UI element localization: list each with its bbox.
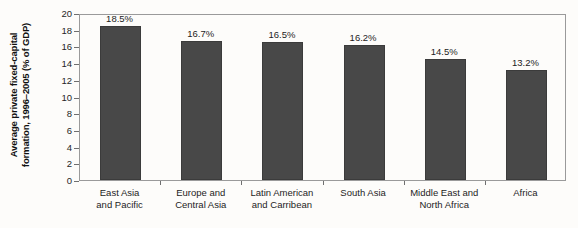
bar-value-label: 14.5% (414, 47, 474, 57)
bar-value-label: 18.5% (90, 14, 150, 24)
bar-value-label: 16.7% (171, 29, 231, 39)
bar[interactable] (344, 45, 385, 180)
bar[interactable] (181, 41, 222, 180)
y-axis-title-container: Average private fixed-capital formation,… (0, 0, 40, 190)
y-axis-tick-label: 0 (52, 176, 72, 186)
y-axis-tick-mark (74, 14, 79, 15)
plot-area (79, 14, 566, 181)
y-axis-tick-label: 16 (52, 42, 72, 52)
x-axis-category-label-line: and Carribean (234, 199, 330, 211)
bar-value-label: 16.5% (252, 30, 312, 40)
x-axis-category-label-line: Africa (477, 187, 573, 199)
y-axis-tick-mark (74, 98, 79, 99)
y-axis-tick-label: 8 (52, 109, 72, 119)
y-axis-tick-mark (74, 64, 79, 65)
y-axis-title: Average private fixed-capital formation,… (3, 18, 37, 172)
x-axis-tick-mark (160, 181, 161, 185)
bar[interactable] (506, 70, 547, 180)
bar-value-label: 13.2% (495, 58, 555, 68)
bar-value-label: 16.2% (333, 33, 393, 43)
bar[interactable] (262, 42, 303, 180)
y-axis-tick-mark (74, 47, 79, 48)
bar-chart-figure: Average private fixed-capital formation,… (0, 0, 578, 228)
y-axis-tick-mark (74, 164, 79, 165)
y-axis-tick-label: 14 (52, 59, 72, 69)
bar[interactable] (100, 26, 141, 180)
x-axis-tick-mark (323, 181, 324, 185)
y-axis-tick-label: 20 (52, 9, 72, 19)
x-axis-tick-mark (241, 181, 242, 185)
y-axis-tick-label: 2 (52, 159, 72, 169)
x-axis-tick-mark (404, 181, 405, 185)
y-axis-title-line-2: formation, 1996–2005 (% of GDP) (20, 23, 33, 167)
y-axis-tick-mark (74, 131, 79, 132)
y-axis-tick-label: 6 (52, 126, 72, 136)
y-axis-tick-mark (74, 148, 79, 149)
y-axis-tick-mark (74, 81, 79, 82)
bar[interactable] (425, 59, 466, 180)
y-axis-tick-label: 4 (52, 143, 72, 153)
y-axis-tick-label: 10 (52, 93, 72, 103)
y-axis-tick-mark (74, 181, 79, 182)
x-axis-tick-mark (485, 181, 486, 185)
y-axis-tick-label: 18 (52, 26, 72, 36)
y-axis-tick-mark (74, 114, 79, 115)
y-axis-title-line-1: Average private fixed-capital (8, 33, 21, 158)
y-axis-tick-mark (74, 31, 79, 32)
x-axis-category-label-line: North Africa (396, 199, 492, 211)
x-axis-category-label: Africa (477, 187, 573, 199)
y-axis-tick-label: 12 (52, 76, 72, 86)
